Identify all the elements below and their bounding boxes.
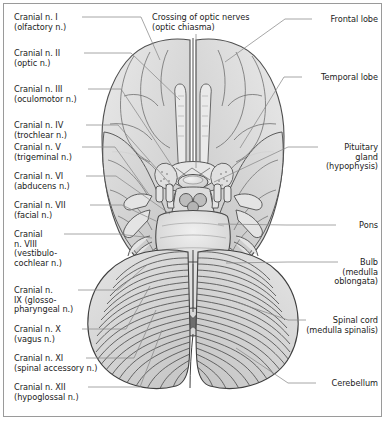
label-line: (optic n.): [14, 59, 60, 69]
label-cn-4: Cranial n. IV(trochlear n.): [14, 121, 67, 140]
label-line: (trigeminal n.): [14, 153, 72, 163]
label-cn-10: Cranial n. X(vagus n.): [14, 325, 61, 344]
label-line: Frontal lobe: [330, 15, 378, 25]
mammillary-bodies: [172, 187, 214, 213]
label-line: (trochlear n.): [14, 131, 67, 141]
label-line: (olfactory n.): [14, 23, 66, 33]
label-cn-8: Cranialn. VIII(vestibulo-cochlear n.): [14, 230, 62, 268]
label-cn-6: Cranial n. VI(abducens n.): [14, 172, 70, 191]
label-line: (facial n.): [14, 211, 66, 221]
label-optic-chiasma: Crossing of optic nerves(optic chiasma): [152, 13, 250, 32]
label-pons: Pons: [359, 221, 378, 231]
label-line: (hypophysis): [326, 162, 378, 172]
label-spinal-cord: Spinal cord(medulla spinalis): [306, 316, 378, 335]
label-frontal-lobe: Frontal lobe: [330, 15, 378, 25]
label-line: (vagus n.): [14, 335, 61, 345]
label-line: (abducens n.): [14, 182, 70, 192]
label-bulb: Bulb(medullaoblongata): [334, 258, 378, 287]
label-line: Pons: [359, 221, 378, 231]
label-cn-5: Cranial n. V(trigeminal n.): [14, 143, 72, 162]
anatomy-figure: Cranial n. I(olfactory n.)Cranial n. II(…: [0, 0, 386, 421]
label-temporal-lobe: Temporal lobe: [321, 73, 378, 83]
label-cn-2: Cranial n. II(optic n.): [14, 49, 60, 68]
label-cn-3: Cranial n. III(oculomotor n.): [14, 85, 77, 104]
label-pituitary: Pituitarygland(hypophysis): [326, 143, 378, 172]
label-line: (optic chiasma): [152, 23, 250, 33]
label-cn-11: Cranial n. XI(spinal accessory n.): [14, 354, 97, 373]
label-cerebellum: Cerebellum: [332, 379, 378, 389]
label-line: Temporal lobe: [321, 73, 378, 83]
label-cn-7: Cranial n. VII(facial n.): [14, 201, 66, 220]
label-cn-9: Cranial n.IX (glosso-pharyngeal n.): [14, 286, 73, 315]
label-line: Cerebellum: [332, 379, 378, 389]
label-line: (hypoglossal n.): [14, 393, 79, 403]
label-line: oblongata): [334, 277, 378, 287]
label-line: cochlear n.): [14, 259, 62, 269]
label-line: (spinal accessory n.): [14, 364, 97, 374]
label-line: (oculomotor n.): [14, 95, 77, 105]
label-cn-12: Cranial n. XII(hypoglossal n.): [14, 383, 79, 402]
label-cn-1: Cranial n. I(olfactory n.): [14, 13, 66, 32]
label-line: (medulla spinalis): [306, 326, 378, 336]
label-line: pharyngeal n.): [14, 305, 73, 315]
